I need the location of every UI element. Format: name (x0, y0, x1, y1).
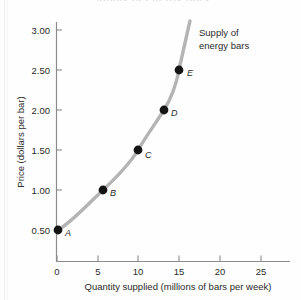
data-point-label-a: A (64, 228, 71, 238)
y-tick-label-050: 0.50 (32, 225, 51, 236)
data-point-label-c: C (145, 150, 152, 160)
data-point-label-b: B (110, 188, 116, 198)
x-tick-label-5: 5 (95, 266, 100, 277)
x-tick-label-20: 20 (215, 266, 226, 277)
y-axis-ticks (57, 30, 63, 230)
data-point-e (175, 66, 184, 75)
data-point-label-d: D (171, 108, 178, 118)
y-axis-title: Price (dollars per bar) (15, 96, 26, 187)
y-tick-label-200: 2.00 (32, 105, 51, 116)
x-tick-label-15: 15 (174, 266, 185, 277)
y-tick-label-250: 2.50 (32, 65, 51, 76)
x-tick-label-10: 10 (133, 266, 144, 277)
data-point-a (54, 226, 63, 235)
y-tick-label-150: 1.50 (32, 145, 51, 156)
x-tick-label-25: 25 (256, 266, 267, 277)
x-axis-title: Quantity supplied (millions of bars per … (85, 281, 272, 292)
supply-curve (58, 21, 190, 230)
figure-panel: Supply of energy bars 3.00 2.50 2.00 1.5… (0, 0, 301, 300)
x-tick-label-0: 0 (54, 266, 59, 277)
data-point-d (160, 106, 169, 115)
supply-curve-chart: 3.00 2.50 2.00 1.50 1.00 0.50 0 5 10 15 … (0, 0, 301, 300)
x-axis-ticks (57, 256, 261, 262)
y-tick-label-300: 3.00 (32, 25, 51, 36)
y-tick-label-100: 1.00 (32, 185, 51, 196)
data-point-label-e: E (187, 68, 194, 78)
supply-curve-label-line2: energy bars (199, 40, 249, 51)
data-points (54, 66, 184, 235)
data-point-c (134, 146, 143, 155)
supply-curve-label-line1: Supply of (199, 27, 239, 38)
data-point-b (99, 186, 108, 195)
